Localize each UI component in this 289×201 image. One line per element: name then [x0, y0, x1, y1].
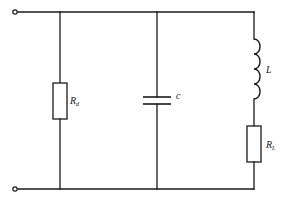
- bottom-terminal: [13, 187, 17, 191]
- resistor-rl: [247, 126, 261, 162]
- label-rl: RL: [265, 139, 276, 151]
- label-rd-main: R: [69, 95, 76, 106]
- inductor-l: [254, 39, 260, 99]
- resistor-rd: [53, 83, 67, 119]
- branch-c: c: [143, 12, 181, 189]
- branch-rd: Rd: [53, 12, 80, 189]
- label-rd-sub: d: [76, 101, 80, 107]
- top-terminal: [13, 10, 17, 14]
- label-l: L: [265, 64, 272, 75]
- circuit-diagram: Rd c L RL: [0, 0, 289, 201]
- label-rd: Rd: [69, 95, 80, 107]
- label-rl-main: R: [265, 139, 272, 150]
- branch-lrl: L RL: [247, 12, 276, 189]
- label-c: c: [176, 90, 181, 101]
- label-rl-sub: L: [271, 145, 276, 151]
